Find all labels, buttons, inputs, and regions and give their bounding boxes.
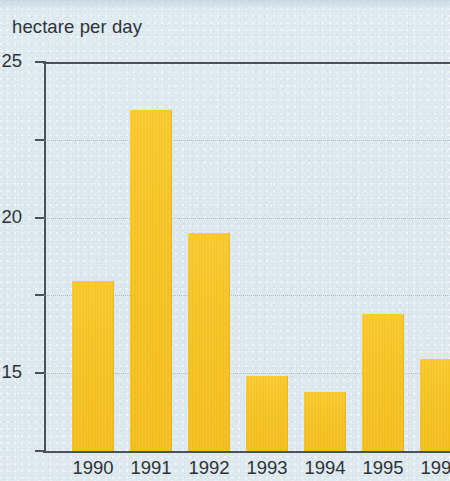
y-axis-line xyxy=(44,61,46,452)
chart-title: hectare per day xyxy=(12,16,142,38)
x-axis-label-1991: 1991 xyxy=(122,457,180,479)
x-axis-label-1990: 1990 xyxy=(64,457,122,479)
y-tick-25: 25 xyxy=(35,61,44,63)
y-tick-5: 5 xyxy=(35,372,44,374)
scan-edge-artifact xyxy=(0,0,450,13)
y-tick-15: 15 xyxy=(35,217,44,219)
gridline-25 xyxy=(43,62,450,65)
gridline-15 xyxy=(44,218,450,220)
y-axis-label-20: 20 xyxy=(1,206,22,228)
x-axis-label-1992: 1992 xyxy=(180,457,238,479)
y-tick-0: 0 xyxy=(35,450,44,452)
bar-1991 xyxy=(130,110,172,451)
bar-1992 xyxy=(188,233,230,451)
bar-1993 xyxy=(246,376,288,451)
x-axis-line xyxy=(43,451,450,453)
x-axis-label-1996: 1996 xyxy=(412,457,450,479)
bar-1994 xyxy=(304,392,346,451)
bar-1996 xyxy=(420,359,450,451)
bar-1995 xyxy=(362,314,404,451)
y-axis-label-15: 15 xyxy=(1,361,22,383)
bar-1990 xyxy=(72,281,114,451)
y-tick-10: 10 xyxy=(35,294,44,296)
plot-area: 0510152025 1990199119921993199419951996 xyxy=(44,62,450,451)
bar-chart-figure: hectare per day 0510152025 1990199119921… xyxy=(0,0,450,481)
gridline-20 xyxy=(44,140,450,142)
x-axis-label-1993: 1993 xyxy=(238,457,296,479)
x-axis-label-1994: 1994 xyxy=(296,457,354,479)
y-tick-20: 20 xyxy=(35,139,44,141)
x-axis-label-1995: 1995 xyxy=(354,457,412,479)
y-axis-label-25: 25 xyxy=(1,50,22,72)
